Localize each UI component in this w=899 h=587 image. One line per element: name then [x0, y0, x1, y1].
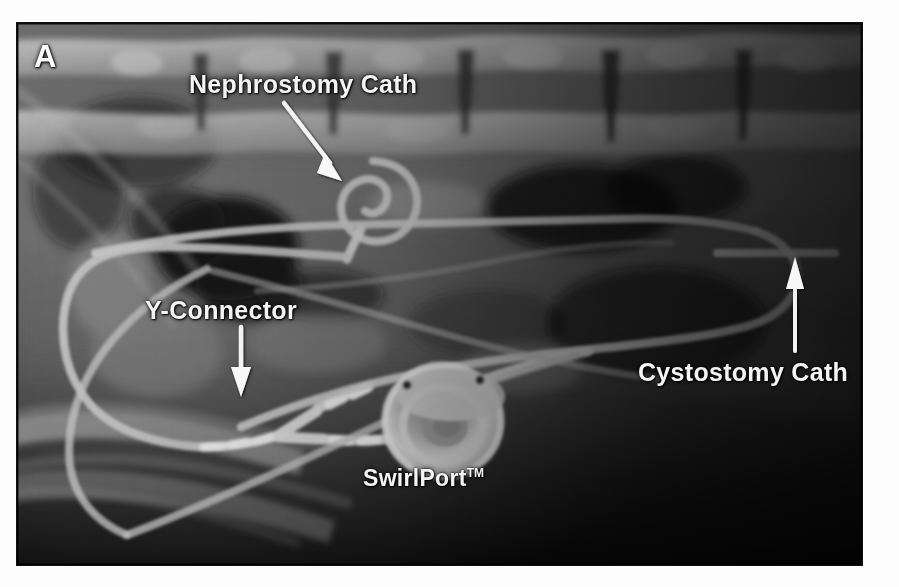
radiograph-image	[17, 23, 862, 565]
radiograph-panel: A Nephrostomy Cath Y-Connector	[17, 23, 862, 565]
figure-root: A Nephrostomy Cath Y-Connector	[0, 0, 899, 587]
